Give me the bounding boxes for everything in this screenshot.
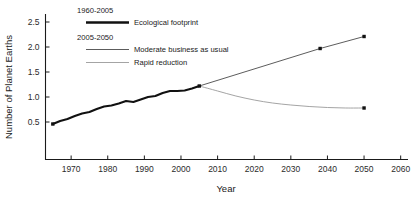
data-point-marker (362, 35, 365, 38)
legend-group-heading-historical: 1960-2005 (77, 6, 113, 15)
y-axis-ticks (46, 22, 50, 122)
x-axis-tick-labels: 1970198019902000201020202030204020502060 (62, 164, 411, 174)
data-point-marker (362, 106, 365, 109)
legend-label-ecological-footprint: Ecological footprint (134, 18, 199, 27)
x-tick-label: 2050 (355, 164, 374, 174)
y-axis: 0.51.01.52.02.5 Number of Planet Earths (3, 14, 50, 160)
chart-legend: 1960-2005 Ecological footprint 2005-2050… (77, 6, 229, 67)
data-point-marker (318, 47, 321, 50)
x-tick-label: 2030 (281, 164, 300, 174)
x-tick-label: 2000 (172, 164, 191, 174)
series-line-moderate-business-as-usual (199, 37, 364, 87)
y-tick-label: 2.0 (28, 42, 40, 52)
y-tick-label: 1.0 (28, 92, 40, 102)
y-tick-label: 2.5 (28, 17, 40, 27)
legend-label-rapid-reduction: Rapid reduction (134, 58, 187, 67)
x-tick-label: 1970 (62, 164, 81, 174)
y-tick-label: 0.5 (28, 117, 40, 127)
y-tick-label: 1.5 (28, 67, 40, 77)
x-tick-label: 2060 (391, 164, 410, 174)
x-axis-title: Year (216, 183, 235, 194)
x-tick-label: 2020 (245, 164, 264, 174)
x-axis: 1970198019902000201020202030204020502060… (45, 156, 410, 195)
y-axis-title: Number of Planet Earths (3, 35, 14, 139)
ecological-footprint-line-chart: 0.51.01.52.02.5 Number of Planet Earths … (0, 0, 414, 207)
x-tick-label: 2010 (208, 164, 227, 174)
y-axis-tick-labels: 0.51.01.52.02.5 (28, 17, 40, 127)
data-point-marker (198, 84, 201, 87)
legend-label-moderate-business-as-usual: Moderate business as usual (134, 45, 229, 54)
legend-group-heading-projection: 2005-2050 (77, 33, 113, 42)
data-point-marker (51, 122, 54, 125)
series-line-rapid-reduction (199, 86, 364, 108)
chart-container: 0.51.01.52.02.5 Number of Planet Earths … (0, 0, 414, 207)
x-tick-label: 2040 (318, 164, 337, 174)
x-axis-ticks (71, 156, 401, 160)
x-tick-label: 1980 (98, 164, 117, 174)
series-line-ecological-footprint (53, 86, 199, 124)
x-tick-label: 1990 (135, 164, 154, 174)
